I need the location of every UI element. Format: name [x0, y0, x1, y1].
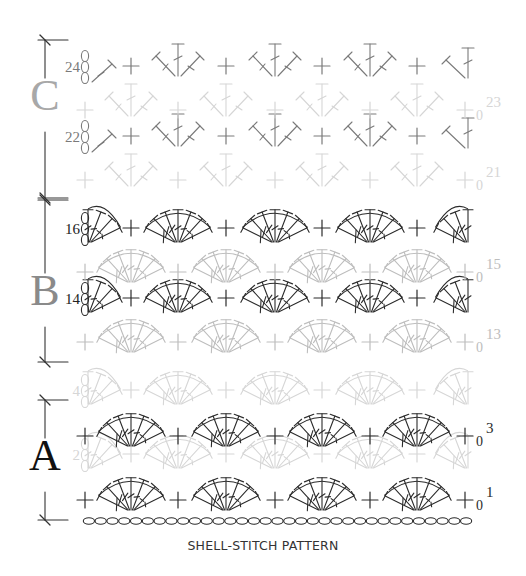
crochet-chart: ABC01203401314015160212202324 — [0, 0, 526, 576]
single-crochet-icon — [218, 220, 234, 236]
chain-stitch-icon — [461, 518, 472, 524]
shell-stitch-icon — [241, 280, 309, 313]
shell-stitch-icon — [288, 414, 356, 447]
single-crochet-icon — [218, 128, 234, 144]
chain-stitch-icon — [81, 121, 88, 132]
foundation-chain — [83, 518, 471, 524]
single-crochet-icon — [314, 382, 330, 398]
shell-stitch-icon — [383, 250, 451, 283]
shell-stitch-icon — [192, 478, 260, 511]
row-1: 01 — [77, 478, 494, 513]
single-crochet-icon — [409, 128, 425, 144]
v-stitch-icon — [105, 154, 157, 186]
v-stitch-icon — [152, 114, 204, 146]
chain-stitch-icon — [81, 51, 88, 62]
turning-chain-icon: 0 — [476, 270, 483, 285]
chain-stitch-icon — [295, 518, 306, 524]
chain-stitch-icon — [343, 518, 354, 524]
single-crochet-icon — [362, 172, 378, 188]
chain-stitch-icon — [413, 518, 424, 524]
chain-stitch-icon — [166, 518, 177, 524]
chain-stitch-icon — [237, 518, 248, 524]
shell-stitch-icon — [97, 320, 165, 353]
v-stitch-icon — [200, 84, 252, 116]
chain-stitch-icon — [307, 518, 318, 524]
section-letter: A — [29, 431, 61, 480]
row-23: 023 — [77, 84, 501, 123]
chain-stitch-icon — [142, 518, 153, 524]
half-shell-icon — [434, 276, 473, 312]
chain-stitch-icon — [425, 518, 436, 524]
single-crochet-icon — [218, 382, 234, 398]
single-crochet-icon — [409, 220, 425, 236]
row-24: 24 — [65, 44, 474, 84]
row-number: 4 — [73, 383, 81, 399]
chain-stitch-icon — [83, 518, 94, 524]
chain-stitch-icon — [284, 518, 295, 524]
row-4: 4 — [73, 368, 474, 407]
shell-stitch-icon — [144, 280, 212, 313]
shell-stitch-icon — [144, 372, 212, 405]
single-crochet-icon — [170, 334, 186, 350]
chain-stitch-icon — [378, 518, 389, 524]
shell-stitch-icon — [336, 280, 404, 313]
shell-stitch-icon — [241, 210, 309, 243]
single-crochet-icon — [267, 492, 283, 508]
chain-stitch-icon — [248, 518, 259, 524]
v-stitch-icon — [344, 44, 396, 76]
v-stitch-icon — [249, 114, 301, 146]
single-crochet-icon — [457, 264, 473, 280]
chain-stitch-icon — [201, 518, 212, 524]
single-crochet-icon — [218, 290, 234, 306]
row-number: 14 — [65, 291, 81, 307]
chart-caption: SHELL-STITCH PATTERN — [0, 538, 526, 553]
single-crochet-icon — [362, 264, 378, 280]
single-crochet-icon — [362, 492, 378, 508]
shell-stitch-icon — [288, 250, 356, 283]
single-crochet-icon — [457, 172, 473, 188]
chain-stitch-icon — [154, 518, 165, 524]
chain-stitch-icon — [272, 518, 283, 524]
single-crochet-icon — [267, 428, 283, 444]
row-13: 013 — [77, 320, 501, 355]
single-crochet-icon — [362, 102, 378, 118]
single-crochet-icon — [123, 220, 139, 236]
row-number: 21 — [486, 164, 501, 180]
shell-stitch-icon — [144, 210, 212, 243]
single-crochet-icon — [314, 446, 330, 462]
chain-stitch-icon — [390, 518, 401, 524]
shell-stitch-icon — [383, 320, 451, 353]
single-crochet-icon — [218, 58, 234, 74]
chain-stitch-icon — [437, 518, 448, 524]
single-crochet-icon — [457, 492, 473, 508]
chain-stitch-icon — [81, 62, 88, 73]
section-a: A — [29, 395, 68, 525]
chain-stitch-icon — [81, 143, 88, 154]
turning-chain-icon: 0 — [476, 340, 483, 355]
shell-stitch-icon — [383, 414, 451, 447]
shell-stitch-icon — [97, 478, 165, 511]
row-22: 22 — [65, 114, 474, 154]
chain-stitch-icon — [402, 518, 413, 524]
single-crochet-icon — [170, 264, 186, 280]
single-crochet-icon — [314, 58, 330, 74]
chain-stitch-icon — [107, 518, 118, 524]
single-crochet-icon — [457, 334, 473, 350]
shell-stitch-icon — [192, 414, 260, 447]
turning-chain-icon: 0 — [476, 178, 483, 193]
turning-chain-icon: 0 — [476, 498, 483, 513]
shell-stitch-icon — [383, 478, 451, 511]
row-number: 3 — [486, 420, 494, 436]
v-stitch-icon — [296, 84, 348, 116]
single-crochet-icon — [314, 128, 330, 144]
shell-stitch-icon — [241, 372, 309, 405]
shell-stitch-icon — [192, 320, 260, 353]
single-crochet-icon — [314, 290, 330, 306]
chain-stitch-icon — [95, 518, 106, 524]
single-crochet-icon — [409, 58, 425, 74]
single-crochet-icon — [170, 428, 186, 444]
row-number: 1 — [486, 484, 494, 500]
shell-stitch-icon — [336, 210, 404, 243]
single-crochet-icon — [123, 382, 139, 398]
chain-stitch-icon — [366, 518, 377, 524]
